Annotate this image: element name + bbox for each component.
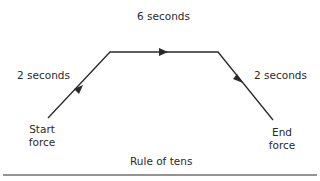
start-force-label: Start force [22,123,62,149]
arrow-down-right-icon [233,74,243,83]
end-force-label: End force [262,126,302,152]
phase-label-hold: 6 seconds [137,10,190,23]
phase-label-fall: 2 seconds [254,69,307,82]
arrow-right-icon [159,48,168,56]
phase-label-rise: 2 seconds [17,69,70,82]
diagram-caption: Rule of tens [130,155,192,168]
force-profile-diagram [0,0,320,181]
